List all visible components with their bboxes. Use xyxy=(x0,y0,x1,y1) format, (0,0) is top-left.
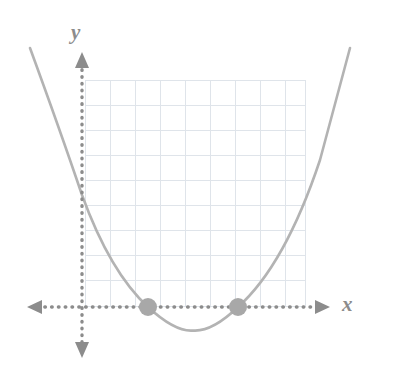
y-axis-label: y xyxy=(71,22,80,43)
parabola-path xyxy=(30,48,350,331)
x-axis-label: x xyxy=(342,294,353,315)
parabola-curve xyxy=(30,48,350,331)
right-root-marker xyxy=(229,298,247,316)
grid-lines xyxy=(85,80,306,307)
coordinate-plane-svg xyxy=(0,0,402,383)
x-axis-left-arrow-icon xyxy=(27,300,42,314)
left-root-marker xyxy=(139,298,157,316)
y-axis-up-arrow-icon xyxy=(75,52,89,68)
x-axis-right-arrow-icon xyxy=(315,300,330,314)
graph-figure: y x xyxy=(0,0,402,383)
y-axis-down-arrow-icon xyxy=(75,342,89,358)
